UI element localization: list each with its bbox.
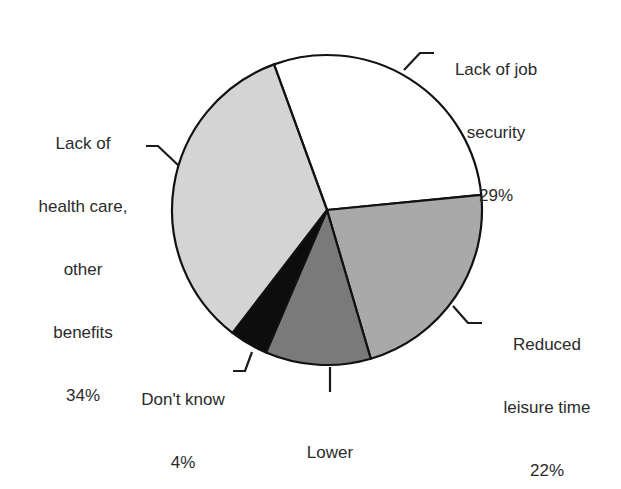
- label-salary-line1: Lower: [280, 442, 380, 463]
- label-leisure-pct: 22%: [487, 460, 607, 481]
- label-leisure: Reduced leisure time 22%: [487, 292, 607, 489]
- label-job-security: Lack of job security 29%: [436, 17, 556, 227]
- label-health-care-line2: health care,: [28, 196, 138, 217]
- label-job-security-pct: 29%: [436, 185, 556, 206]
- label-health-care-line4: benefits: [28, 322, 138, 343]
- label-health-care-pct: 34%: [28, 385, 138, 406]
- label-salary: Lower salary 11%: [280, 400, 380, 489]
- label-job-security-line2: security: [436, 122, 556, 143]
- label-dont-know-line1: Don't know: [128, 389, 238, 410]
- label-leisure-line1: Reduced: [487, 334, 607, 355]
- leader-health-care: [146, 146, 178, 165]
- label-health-care-line3: other: [28, 259, 138, 280]
- label-health-care-line1: Lack of: [28, 133, 138, 154]
- label-dont-know: Don't know 4%: [128, 347, 238, 489]
- label-health-care: Lack of health care, other benefits 34%: [28, 91, 138, 427]
- label-job-security-line1: Lack of job: [436, 59, 556, 80]
- label-leisure-line2: leisure time: [487, 397, 607, 418]
- leader-job-security: [404, 53, 434, 70]
- label-dont-know-pct: 4%: [128, 452, 238, 473]
- leader-leisure: [453, 306, 482, 323]
